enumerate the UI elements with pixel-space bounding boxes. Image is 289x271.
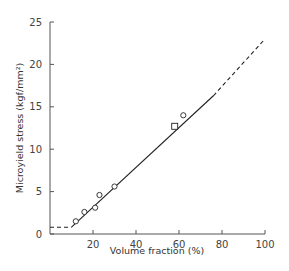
ticks [50,22,265,234]
chart: 051015202520406080100 Microyield stress … [0,0,289,271]
x-tick-label: 80 [216,239,229,250]
fit-lines [50,39,265,227]
y-tick-label: 5 [36,186,42,197]
extrapolation-line [213,39,265,96]
circle-marker [112,184,117,189]
x-tick-label: 20 [87,239,100,250]
square-marker [172,123,178,129]
circle-marker [73,219,78,224]
y-tick-label: 25 [29,17,42,28]
y-tick-label: 15 [29,101,42,112]
y-tick-label: 0 [36,229,42,240]
circle-marker [93,205,98,210]
y-axis-label: Microyield stress (kgf/mm²) [14,63,25,193]
circle-marker [82,209,87,214]
circle-marker [97,192,102,197]
axes [50,22,265,234]
y-tick-label: 20 [29,59,42,70]
circle-marker [181,113,186,118]
x-tick-label: 100 [255,239,274,250]
x-axis-label: Volume fraction (%) [110,245,204,256]
data-points [73,113,186,224]
tick-labels: 051015202520406080100 [29,17,274,251]
y-tick-label: 10 [29,144,42,155]
